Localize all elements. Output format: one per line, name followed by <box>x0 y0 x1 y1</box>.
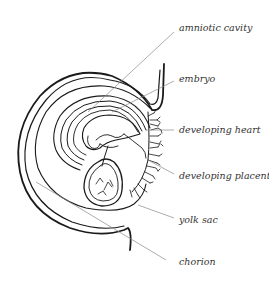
heart-vessels <box>96 134 124 148</box>
leader-lines <box>36 32 174 260</box>
placenta-villi <box>130 110 163 198</box>
leader-embryo <box>112 81 174 112</box>
embryo-body <box>82 115 140 150</box>
label-embryo: embryo <box>179 73 215 84</box>
yolk-stalk <box>102 146 108 166</box>
leader-yolk-sac <box>138 205 174 218</box>
embryo-diagram: amniotic cavity embryo developing heart … <box>0 0 269 282</box>
label-developing-heart: developing heart <box>179 124 261 135</box>
label-developing-placenta: developing placenta <box>179 170 269 181</box>
label-yolk-sac: yolk sac <box>179 214 218 225</box>
embryo-illustration <box>0 0 269 282</box>
yolk-sac-outer <box>84 159 122 206</box>
leader-amniotic-cavity <box>88 32 174 112</box>
amnion-layer-3 <box>67 106 142 160</box>
yolk-vessels <box>96 178 113 195</box>
yolk-sac-inner <box>89 164 118 202</box>
uterine-wall-outer <box>18 64 164 250</box>
label-amniotic-cavity: amniotic cavity <box>179 22 252 33</box>
label-chorion: chorion <box>179 256 216 267</box>
